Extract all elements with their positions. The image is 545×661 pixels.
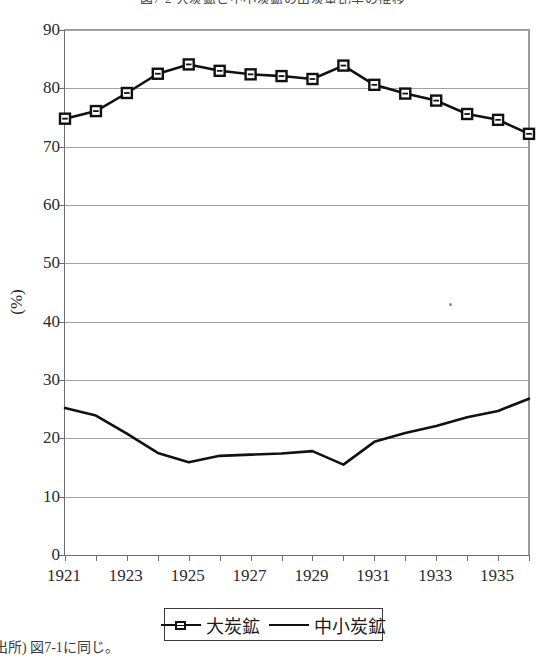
y-axis-tick-label: 90 [20, 20, 60, 40]
data-point-marker [431, 96, 441, 106]
data-point-marker [246, 69, 256, 79]
x-axis-tick-labels: 19211923192519271929193119331935 [0, 566, 545, 590]
y-axis-tick-label: 20 [20, 428, 60, 448]
x-axis-tick-mark [158, 555, 159, 561]
x-axis-tick-mark [282, 555, 283, 561]
x-axis-tick-mark [251, 555, 252, 561]
y-axis-tick-label: 40 [20, 312, 60, 332]
x-axis-tick-mark [65, 555, 66, 561]
series-line-1 [65, 64, 529, 133]
x-axis-tick-mark [498, 555, 499, 561]
chart-container: 図7-2 大炭鉱と中小炭鉱の出炭量比率の推移 (%) 0102030405060… [0, 0, 545, 661]
data-point-marker [524, 129, 534, 139]
x-axis-tick-mark [312, 555, 313, 561]
legend-label-large-mines: 大炭鉱 [206, 612, 260, 638]
x-axis-tick-label: 1931 [343, 566, 403, 586]
y-axis-tick-label: 0 [20, 545, 60, 565]
x-axis-tick-label: 1935 [467, 566, 527, 586]
series-lines [65, 30, 529, 555]
x-axis-tick-label: 1927 [220, 566, 280, 586]
plot-area [64, 30, 529, 556]
chart-title: 図7-2 大炭鉱と中小炭鉱の出炭量比率の推移 [0, 0, 545, 4]
data-point-marker [215, 66, 225, 76]
x-axis-tick-mark [405, 555, 406, 561]
x-axis-tick-mark [343, 555, 344, 561]
data-point-marker [369, 80, 379, 90]
y-axis-tick-labels: 0102030405060708090 [16, 0, 60, 661]
legend-swatch-square-line-icon [161, 619, 201, 631]
y-axis-tick-label: 10 [20, 487, 60, 507]
data-point-marker [400, 89, 410, 99]
series-line-2 [65, 399, 529, 465]
x-axis-tick-label: 1933 [405, 566, 465, 586]
x-axis-tick-label: 1923 [96, 566, 156, 586]
data-point-marker [91, 106, 101, 116]
x-axis-tick-mark [220, 555, 221, 561]
y-axis-tick-label: 60 [20, 195, 60, 215]
data-point-marker [307, 74, 317, 84]
data-point-marker [338, 61, 348, 71]
x-axis-tick-mark [96, 555, 97, 561]
x-axis-tick-mark [529, 555, 530, 561]
y-axis-tick-label: 70 [20, 137, 60, 157]
y-axis-tick-label: 30 [20, 370, 60, 390]
legend-label-small-mines: 中小炭鉱 [314, 612, 386, 638]
x-axis-tick-mark [127, 555, 128, 561]
data-point-marker [153, 69, 163, 79]
data-point-marker [122, 88, 132, 98]
data-point-marker [493, 115, 503, 125]
x-axis-tick-label: 1921 [34, 566, 94, 586]
data-point-marker [60, 114, 70, 124]
x-axis-tick-mark [189, 555, 190, 561]
chart-legend: 大炭鉱 中小炭鉱 [164, 608, 383, 641]
legend-item-small-mines[interactable]: 中小炭鉱 [269, 612, 386, 638]
legend-item-large-mines[interactable]: 大炭鉱 [161, 612, 260, 638]
x-axis-tick-mark [374, 555, 375, 561]
source-note: 出所) 図7-1に同じ。 [0, 636, 119, 656]
x-axis-tick-mark [436, 555, 437, 561]
page-speck [449, 303, 452, 306]
y-axis-tick-label: 50 [20, 253, 60, 273]
legend-swatch-plain-line-icon [269, 619, 309, 631]
data-point-marker [184, 59, 194, 69]
x-axis-tick-mark [467, 555, 468, 561]
y-axis-tick-label: 80 [20, 78, 60, 98]
data-point-marker [462, 109, 472, 119]
x-axis-tick-label: 1925 [158, 566, 218, 586]
data-point-marker [277, 71, 287, 81]
x-axis-tick-label: 1929 [281, 566, 341, 586]
